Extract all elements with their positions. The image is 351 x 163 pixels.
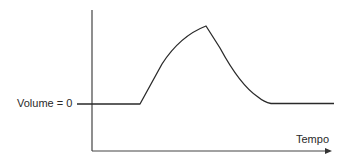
volume-curve xyxy=(77,26,334,104)
volume-time-diagram: Volume = 0 Tempo xyxy=(0,0,351,163)
x-axis-arrow-icon xyxy=(325,148,332,154)
x-axis-label: Tempo xyxy=(296,133,329,145)
baseline-label: Volume = 0 xyxy=(17,97,72,109)
